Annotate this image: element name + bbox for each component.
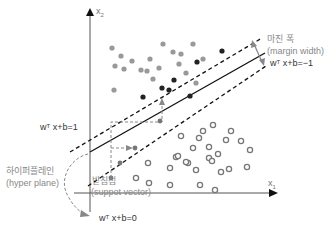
class-b-point [146,180,151,185]
class-b-point [200,128,205,133]
class-a-point [118,53,123,58]
class-b-support-point [158,119,163,124]
support-vector-label-en: (suppot vector) [91,187,151,197]
class-b-point [145,160,150,165]
y-axis-label: x2 [96,6,104,20]
class-a-boundary-point [187,93,192,98]
positive-boundary-eq: wT x+b=1 [40,122,78,132]
class-b-point [193,167,198,172]
hyperplane-eq: wT x+b=0 [99,213,137,223]
class-a-point [150,76,155,81]
class-b-point [197,182,202,187]
class-a-boundary-point [171,77,176,82]
class-a-point [170,49,175,54]
class-b-point [247,147,252,152]
class-a-point [112,63,117,68]
class-b-point [226,166,231,171]
class-b-point [210,122,215,127]
class-a-point [144,68,149,73]
margin-width-arrow [254,44,262,62]
class-b-point [238,138,243,143]
arrow-head-icon [251,40,257,48]
class-a-boundary-point [166,87,171,92]
class-b-point [167,165,172,170]
data-points [109,41,253,192]
class-a-point [138,67,143,72]
class-b-point [215,151,220,156]
class-b-point [167,182,172,187]
support-vector-label-ko: 받침점 [92,176,116,186]
arrow-head-icon [259,58,265,66]
x-axis-label: x1 [268,178,276,192]
class-b-point [183,159,188,164]
class-a-boundary-point [194,59,199,64]
class-a-boundary-point [159,85,164,90]
class-a-point [147,56,152,61]
class-b-point [206,144,211,149]
margin-width-label-en: (margin width) [267,46,324,56]
class-b-point [178,133,183,138]
class-a-boundary-point [219,48,224,53]
class-a-point [109,45,114,50]
class-b-point [244,164,249,169]
class-a-point [190,41,195,46]
arrow-head-icon [80,210,90,217]
class-b-support-point [133,146,138,151]
class-b-point [218,169,223,174]
class-a-point [129,58,134,63]
arrow-head-icon [126,145,133,151]
class-b-point [175,153,180,158]
class-b-support-point [118,161,123,166]
class-a-point [183,70,188,75]
class-b-point [212,187,217,192]
class-b-point [209,158,214,163]
class-a-point [193,80,198,85]
class-a-point [160,41,165,46]
class-a-point [200,56,205,61]
class-b-point [223,137,228,142]
class-a-point [176,61,181,66]
class-b-point [228,128,233,133]
hyperplane-pointer [64,154,88,213]
class-a-point [111,87,116,92]
margin-width-label-ko: 마진 폭 [267,34,294,44]
class-a-point [121,66,126,71]
class-b-point [196,135,201,140]
positive-margin-line [70,38,262,152]
hyperplane-label-ko: 하이퍼플레인 [6,166,54,176]
y-axis-arrow-icon [86,8,94,16]
class-a-point [178,51,183,56]
class-a-point [156,65,161,70]
hyperplane-label-en: (hyper plane) [6,178,59,188]
negative-boundary-eq: wT x+b=−1 [270,58,313,68]
class-b-point [190,145,195,150]
arrow-head-icon [159,98,165,105]
class-a-boundary-point [140,94,145,99]
class-b-point [133,175,138,180]
